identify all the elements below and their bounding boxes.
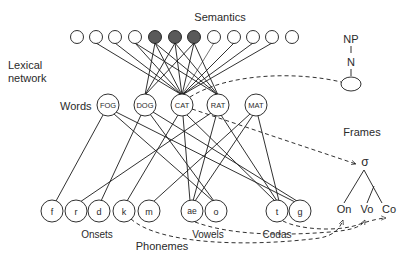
semantic-node xyxy=(109,31,122,44)
lexical-network-label-1: Lexical xyxy=(8,59,42,71)
semantic-layer xyxy=(71,31,299,44)
noun-slot xyxy=(341,77,361,91)
svg-text:g: g xyxy=(297,207,302,217)
codas-label: Codas xyxy=(263,229,292,240)
onsets-label: Onsets xyxy=(81,229,113,240)
coda-slot: Co xyxy=(382,203,396,215)
phoneme-node-f: f xyxy=(41,200,63,222)
svg-text:CAT: CAT xyxy=(175,101,190,110)
word-node-rat: RAT xyxy=(207,94,229,116)
phoneme-layer: f r d k m ae o t xyxy=(41,200,311,222)
svg-text:r: r xyxy=(75,207,78,217)
svg-text:d: d xyxy=(96,207,101,217)
phoneme-node-r: r xyxy=(65,200,87,222)
n-label: N xyxy=(347,56,355,68)
semantic-node-active xyxy=(169,31,182,44)
lexical-network-label-2: network xyxy=(8,72,47,84)
word-layer: FOG DOG CAT RAT MAT xyxy=(97,94,267,116)
svg-text:o: o xyxy=(213,207,218,217)
phonemes-label: Phonemes xyxy=(136,240,189,252)
onset-slot: On xyxy=(337,203,352,215)
word-phoneme-connections xyxy=(56,112,297,202)
word-node-fog: FOG xyxy=(97,94,119,116)
semantic-node xyxy=(71,31,84,44)
syllable-frame: σ On Vo Co xyxy=(337,155,396,215)
semantic-node-active xyxy=(149,31,162,44)
phoneme-node-d: d xyxy=(88,200,110,222)
semantic-node xyxy=(90,31,103,44)
semantic-node xyxy=(247,31,260,44)
svg-text:m: m xyxy=(145,207,153,217)
phoneme-node-k: k xyxy=(113,200,135,222)
semantic-node xyxy=(286,31,299,44)
cat-to-noun-slot-link xyxy=(190,76,341,97)
phoneme-node-o: o xyxy=(205,200,227,222)
phoneme-node-g: g xyxy=(289,200,311,222)
svg-text:RAT: RAT xyxy=(211,101,226,110)
svg-text:ae: ae xyxy=(187,206,197,216)
semantic-word-connections xyxy=(96,43,272,95)
svg-text:DOG: DOG xyxy=(136,101,153,110)
semantic-node-active xyxy=(188,31,201,44)
np-label: NP xyxy=(343,33,358,45)
noun-phrase-frame: NP N xyxy=(341,33,361,91)
frames-label: Frames xyxy=(343,126,381,138)
semantics-label: Semantics xyxy=(194,11,246,23)
svg-text:FOG: FOG xyxy=(100,101,116,110)
cat-to-syllable-link xyxy=(192,109,356,164)
semantic-node xyxy=(266,31,279,44)
vowels-label: Vowels xyxy=(192,229,224,240)
word-node-dog: DOG xyxy=(134,94,156,116)
sigma-label: σ xyxy=(361,155,369,169)
phoneme-node-ae: ae xyxy=(181,200,203,222)
word-node-mat: MAT xyxy=(245,94,267,116)
semantic-node xyxy=(129,31,142,44)
svg-text:k: k xyxy=(122,207,127,217)
word-node-cat: CAT xyxy=(171,94,193,116)
words-label: Words xyxy=(60,100,92,112)
lexical-network-diagram: FOG DOG CAT RAT MAT f r d xyxy=(0,0,405,263)
vowel-slot: Vo xyxy=(361,203,374,215)
phoneme-node-t: t xyxy=(266,200,288,222)
svg-text:MAT: MAT xyxy=(248,101,264,110)
semantic-node xyxy=(228,31,241,44)
phoneme-node-m: m xyxy=(138,200,160,222)
semantic-node xyxy=(208,31,221,44)
